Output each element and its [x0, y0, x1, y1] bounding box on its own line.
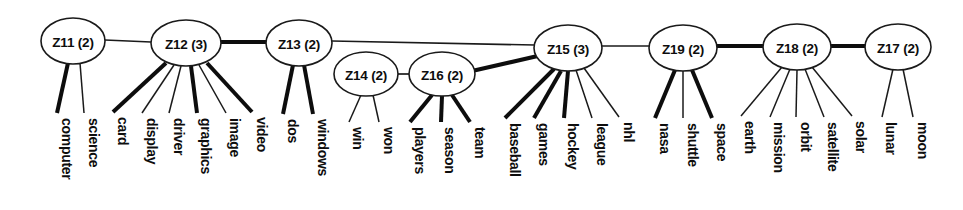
- leaf-label-team: team: [472, 127, 488, 158]
- leaf-edge-league: [576, 70, 592, 118]
- cluster-label-z13: Z13 (2): [278, 37, 320, 52]
- leaf-edge-dos: [283, 65, 293, 114]
- leaf-label-baseball: baseball: [507, 123, 523, 177]
- leaf-label-orbit: orbit: [798, 122, 814, 152]
- leaf-label-mission: mission: [771, 122, 787, 173]
- cluster-node-z11[interactable]: Z11 (2): [41, 18, 105, 64]
- leaf-label-card: card: [115, 117, 131, 145]
- leaf-edge-win: [349, 95, 361, 122]
- leaf-label-moon: moon: [915, 122, 931, 159]
- leaf-label-display: display: [144, 118, 160, 165]
- cluster-node-z12[interactable]: Z12 (3): [151, 20, 221, 66]
- leaf-label-players: players: [412, 127, 428, 174]
- cluster-node-z19[interactable]: Z19 (2): [649, 25, 717, 71]
- leaf-label-satellite: satellite: [825, 122, 841, 172]
- leaf-label-season: season: [442, 127, 458, 173]
- cluster-label-z16: Z16 (2): [421, 68, 463, 83]
- cluster-node-z18[interactable]: Z18 (2): [763, 24, 831, 70]
- leaf-edge-video: [207, 63, 252, 112]
- leaf-label-hockey: hockey: [565, 123, 581, 170]
- leaf-edge-group: [57, 63, 913, 122]
- leaf-label-dos: dos: [285, 119, 301, 144]
- leaf-label-earth: earth: [742, 121, 758, 154]
- cluster-node-z17[interactable]: Z17 (2): [865, 24, 931, 70]
- cluster-node-z13[interactable]: Z13 (2): [266, 20, 332, 66]
- cluster-node-z15[interactable]: Z15 (3): [534, 25, 602, 71]
- leaf-edge-hockey: [564, 71, 568, 118]
- leaf-label-lunar: lunar: [883, 122, 899, 156]
- leaf-label-league: league: [594, 123, 610, 166]
- leaf-edge-won: [373, 95, 379, 122]
- leaf-edge-orbit: [796, 70, 797, 117]
- cluster-node-z16[interactable]: Z16 (2): [409, 52, 475, 96]
- diagram-canvas: Z11 (2)Z12 (3)Z13 (2)Z14 (2)Z16 (2)Z15 (…: [0, 0, 963, 210]
- cluster-node-group: Z11 (2)Z12 (3)Z13 (2)Z14 (2)Z16 (2)Z15 (…: [41, 18, 931, 96]
- leaf-label-won: won: [381, 126, 397, 154]
- leaf-edge-satellite: [805, 69, 824, 117]
- leaf-edge-graphics: [191, 66, 197, 113]
- leaf-label-shuttle: shuttle: [685, 123, 701, 167]
- cluster-label-z11: Z11 (2): [52, 35, 93, 50]
- cluster-label-z15: Z15 (3): [547, 42, 589, 57]
- leaf-label-computer: computer: [59, 118, 75, 180]
- leaf-label-driver: driver: [171, 118, 187, 156]
- leaf-label-solar: solar: [853, 121, 869, 154]
- leaf-edge-solar: [812, 67, 852, 116]
- cluster-dendrogram-graph: Z11 (2)Z12 (3)Z13 (2)Z14 (2)Z16 (2)Z15 (…: [0, 0, 963, 210]
- leaf-edge-computer: [57, 63, 68, 113]
- leaf-label-nasa: nasa: [657, 123, 673, 154]
- leaf-edge-windows: [304, 65, 313, 114]
- leaf-label-graphics: graphics: [198, 118, 214, 174]
- leaf-label-games: games: [536, 123, 552, 166]
- leaf-edge-card: [113, 63, 166, 112]
- leaf-edge-mission: [770, 69, 790, 117]
- leaf-edge-players: [410, 95, 432, 122]
- leaf-edge-science: [80, 63, 84, 113]
- cluster-label-z19: Z19 (2): [662, 42, 704, 57]
- cluster-label-z17: Z17 (2): [877, 41, 919, 56]
- cluster-label-z14: Z14 (2): [345, 68, 387, 83]
- cluster-edge-z16-z15: [472, 55, 542, 71]
- leaf-label-science: science: [86, 118, 102, 168]
- leaf-label-video: video: [254, 117, 270, 152]
- leaf-edge-lunar: [882, 69, 893, 117]
- leaf-label-windows: windows: [315, 118, 331, 177]
- leaf-edge-space: [692, 70, 712, 118]
- leaf-label-win: win: [350, 126, 366, 149]
- leaf-edge-driver: [169, 66, 181, 113]
- cluster-edge-z13-z15: [332, 41, 535, 45]
- leaf-edge-moon: [903, 69, 913, 117]
- leaf-edge-team: [452, 95, 470, 122]
- cluster-node-z14[interactable]: Z14 (2): [334, 52, 398, 96]
- leaf-edge-earth: [741, 67, 782, 116]
- leaf-label-image: image: [227, 118, 243, 157]
- cluster-label-z12: Z12 (3): [165, 37, 207, 52]
- leaf-edge-season: [441, 96, 442, 122]
- cluster-edge-z11-z12: [105, 40, 151, 42]
- leaf-edge-image: [199, 65, 226, 113]
- leaf-edge-nasa: [655, 70, 675, 118]
- leaf-label-nhl: nhl: [621, 122, 637, 142]
- leaf-label-group: computersciencecarddisplaydrivergraphics…: [59, 117, 931, 180]
- leaf-label-space: space: [714, 123, 730, 162]
- cluster-label-z18: Z18 (2): [776, 41, 818, 56]
